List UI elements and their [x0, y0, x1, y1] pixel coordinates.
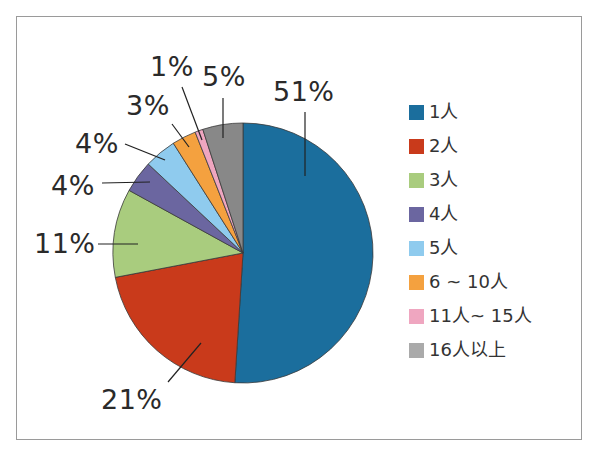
leader-line-7 — [182, 87, 202, 140]
pct-label-1人: 51% — [273, 78, 335, 105]
legend-item-3: 3人 — [409, 171, 458, 189]
leader-line-5 — [125, 144, 165, 160]
pct-label-5人: 4% — [75, 130, 119, 157]
legend-item-8: 16人以上 — [409, 341, 506, 359]
legend-swatch — [409, 173, 424, 188]
legend-label: 1人 — [429, 103, 458, 121]
legend-swatch — [409, 309, 424, 324]
pie-chart — [0, 0, 596, 450]
legend-item-4: 4人 — [409, 205, 458, 223]
pct-label-2人: 21% — [101, 386, 163, 413]
legend-item-2: 2人 — [409, 137, 458, 155]
legend-label: 4人 — [429, 205, 458, 223]
legend-label: 2人 — [429, 137, 458, 155]
legend-swatch — [409, 105, 424, 120]
legend-swatch — [409, 275, 424, 290]
legend-label: 5人 — [429, 239, 458, 257]
pct-label-4人: 4% — [51, 172, 95, 199]
legend-swatch — [409, 139, 424, 154]
pct-label-11-15人: 1% — [150, 53, 194, 80]
pct-label-6-10人: 3% — [126, 92, 170, 119]
legend-label: 16人以上 — [429, 341, 506, 359]
legend-swatch — [409, 207, 424, 222]
legend-item-1: 1人 — [409, 103, 458, 121]
legend-label: 11人~ 15人 — [429, 307, 532, 325]
legend-item-5: 5人 — [409, 239, 458, 257]
legend-label: 6 ~ 10人 — [429, 273, 508, 291]
pct-label-16人以上: 5% — [202, 63, 246, 90]
pie-slice-1 — [235, 123, 373, 383]
legend-swatch — [409, 343, 424, 358]
pct-label-3人: 11% — [34, 230, 96, 257]
legend-item-6: 6 ~ 10人 — [409, 273, 508, 291]
legend-item-7: 11人~ 15人 — [409, 307, 532, 325]
pie-slices — [113, 123, 373, 383]
legend-label: 3人 — [429, 171, 458, 189]
legend-swatch — [409, 241, 424, 256]
